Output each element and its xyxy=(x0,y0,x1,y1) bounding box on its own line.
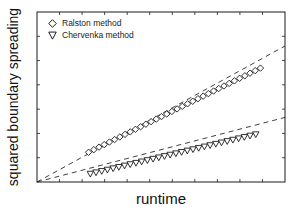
legend-label-ralston: Ralston method xyxy=(62,18,122,28)
legend-item-ralston: Ralston method xyxy=(48,17,134,29)
legend-label-chervenka: Chervenka method xyxy=(62,30,134,40)
diamond-marker-icon xyxy=(48,19,62,28)
scatter-plot xyxy=(0,0,299,215)
x-axis-label: runtime xyxy=(37,190,285,207)
legend-item-chervenka: Chervenka method xyxy=(48,29,134,41)
series-ralston-markers xyxy=(85,65,263,156)
y-axis-label-text: squared boundary spreading xyxy=(5,8,21,186)
y-axis-label: squared boundary spreading xyxy=(2,12,24,182)
legend: Ralston method Chervenka method xyxy=(48,17,134,41)
triangle-down-marker-icon xyxy=(48,31,62,40)
